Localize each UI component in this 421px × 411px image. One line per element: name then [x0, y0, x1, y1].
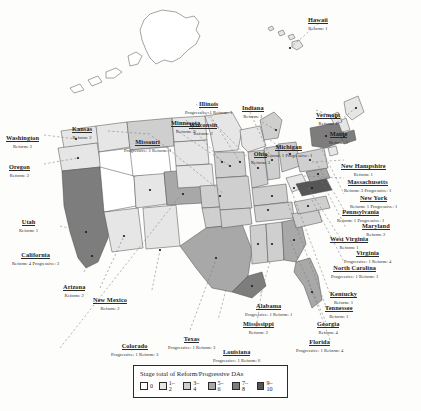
annotation-florida: Florida Progressive: 1 Reform: 4 — [296, 330, 343, 354]
legend-swatch-2 — [183, 382, 191, 390]
legend-swatch-0 — [140, 382, 148, 390]
state-alabama — [266, 222, 284, 262]
annotation-missouri: Missouri Progressive: 2 Reform: 1 — [124, 130, 171, 154]
legend-key-3: 5–6 — [208, 380, 226, 392]
annotation-washington: Washington Reform: 2 — [6, 126, 39, 150]
annotation-california: California Reform: 4 Progressive: 2 — [12, 243, 59, 267]
legend-title: Stage total of Reform/Progressive DAs — [140, 369, 282, 378]
legend-key-2: 3–4 — [183, 380, 201, 392]
annotation-north-carolina: North Carolina Progressive: 1 Reform: 1 — [331, 256, 378, 280]
legend-label-4: 7–8 — [242, 380, 251, 392]
legend-key-1: 1–2 — [159, 380, 177, 392]
annotation-texas: Texas Progressive: 1 Reform: 3 — [168, 327, 215, 351]
state-north-carolina — [294, 196, 330, 214]
legend-label-0: 0 — [150, 383, 153, 389]
annotation-michigan: Michigan Reform: 1 Progressive: 1 — [265, 135, 312, 159]
annotation-new-mexico: New Mexico Reform: 2 — [93, 288, 127, 312]
state-missouri — [216, 176, 252, 210]
legend-swatch-1 — [159, 382, 167, 390]
legend-key-5: 9–10 — [257, 380, 278, 392]
annotation-louisiana: Louisiana Progressive: 1 Reform: 6 — [213, 340, 260, 364]
state-arkansas — [220, 208, 252, 228]
state-south-dakota — [174, 140, 209, 166]
annotation-maine: Maine Reform: 1 — [329, 122, 348, 146]
legend-key-4: 7–8 — [232, 380, 250, 392]
state-new-jersey — [328, 146, 338, 156]
annotation-colorado: Colorado Progressive: 1 Reform: 3 — [111, 334, 158, 358]
state-oregon — [58, 143, 101, 171]
annotation-ohio: Ohio Reform: 3 — [251, 142, 270, 166]
state-new-mexico — [143, 205, 180, 249]
state-nebraska — [176, 164, 214, 188]
state-florida — [294, 258, 322, 308]
annotation-kansas: Kansas Reform: 2 — [72, 117, 92, 141]
legend-label-1: 1–2 — [169, 380, 178, 392]
state-maine — [344, 96, 364, 120]
annotation-oregon: Oregon Reform: 2 — [9, 155, 30, 179]
legend-row: 0 1–2 3–4 5–6 7–8 9–10 — [140, 380, 282, 392]
legend-swatch-5 — [257, 382, 265, 390]
alaska-inset — [70, 10, 200, 93]
legend-key-0: 0 — [140, 382, 153, 390]
legend-label-3: 5–6 — [218, 380, 227, 392]
legend-label-2: 3–4 — [193, 380, 202, 392]
annotation-indiana: Indiana Reform: 1 — [242, 96, 264, 120]
state-kentucky — [252, 184, 288, 206]
annotation-mississippi: Mississippi Reform: 2 — [243, 312, 274, 336]
state-arizona — [104, 208, 143, 252]
annotation-wisconsin: Wisconsin Reform: 2 — [189, 113, 217, 137]
us-choropleth-map-figure: Hawaii Reform: 1 Illinois Progressive: 1… — [0, 0, 421, 411]
legend-swatch-4 — [232, 382, 240, 390]
legend-swatch-3 — [208, 382, 216, 390]
annotation-utah: Utah Reform: 1 — [19, 210, 38, 234]
legend-label-5: 9–10 — [266, 380, 278, 392]
annotation-arizona: Arizona Reform: 2 — [63, 275, 85, 299]
map-legend: Stage total of Reform/Progressive DAs 0 … — [133, 365, 288, 398]
hawaii-inset — [268, 26, 303, 50]
annotation-hawaii: Hawaii Reform: 1 — [308, 8, 328, 32]
